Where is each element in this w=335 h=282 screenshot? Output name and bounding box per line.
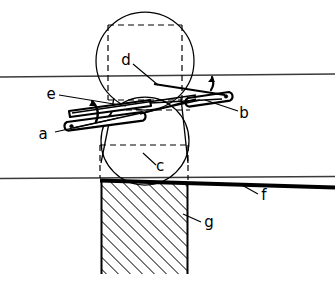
diagram-canvas: a b c d e f g bbox=[0, 0, 335, 282]
upper-circle bbox=[96, 12, 194, 110]
curved-arrow-right bbox=[208, 77, 215, 90]
label-c: c bbox=[156, 157, 164, 175]
band-top-line bbox=[0, 74, 335, 77]
label-d: d bbox=[121, 51, 131, 69]
label-b: b bbox=[239, 104, 249, 122]
lower-dashed-rectangle-c bbox=[100, 145, 188, 180]
leader-c bbox=[143, 153, 156, 165]
upper-dashed-rectangle-d bbox=[108, 25, 182, 100]
label-e: e bbox=[46, 85, 55, 103]
hatched-block-fill bbox=[101, 181, 188, 274]
hatched-block-g bbox=[101, 181, 188, 274]
technical-diagram: a b c d e f g bbox=[0, 0, 335, 282]
connector-right bbox=[181, 98, 188, 163]
lever-arm-b-link bbox=[154, 84, 225, 95]
leader-d bbox=[133, 64, 158, 85]
lever-arm-a-pivot-eye bbox=[70, 125, 73, 128]
label-g: g bbox=[204, 213, 214, 231]
label-f: f bbox=[261, 186, 267, 204]
label-a: a bbox=[38, 125, 47, 143]
